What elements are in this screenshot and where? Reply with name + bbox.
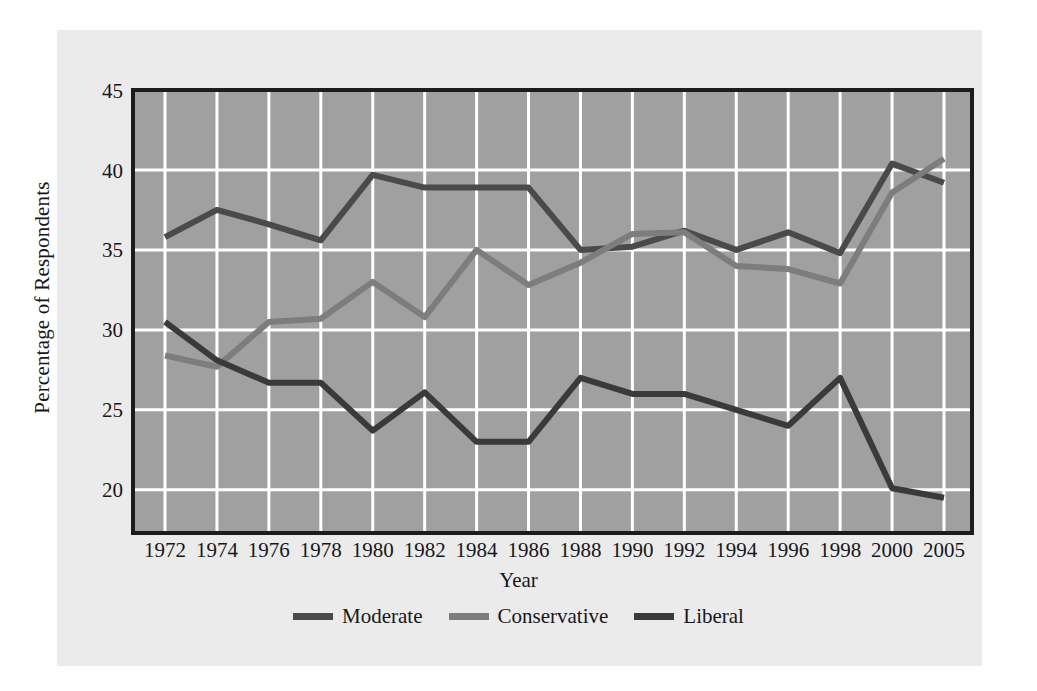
legend-swatch-icon: [293, 613, 333, 620]
legend-swatch-icon: [634, 613, 674, 620]
line-chart-figure: Percentage of Respondents 45 40 35 30 25…: [0, 0, 1037, 691]
legend-item-moderate[interactable]: Moderate: [293, 606, 422, 627]
legend-item-conservative[interactable]: Conservative: [449, 606, 609, 627]
legend-swatch-icon: [449, 613, 489, 620]
chart-page: Percentage of Respondents 45 40 35 30 25…: [0, 0, 1037, 691]
x-tick-2005: 2005: [904, 538, 984, 563]
plot-background: [133, 90, 972, 533]
legend-label: Liberal: [683, 606, 744, 627]
legend-label: Conservative: [498, 606, 609, 627]
x-axis-label: Year: [0, 568, 1037, 593]
legend-label: Moderate: [342, 606, 422, 627]
legend-item-liberal[interactable]: Liberal: [634, 606, 744, 627]
chart-legend: ModerateConservativeLiberal: [0, 606, 1037, 627]
